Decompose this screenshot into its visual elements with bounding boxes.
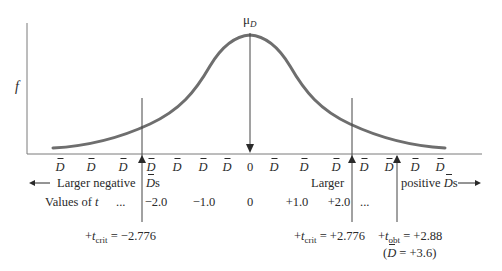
crit-right-value: = +2.776 xyxy=(317,229,365,243)
ellipsis-right: ... xyxy=(360,196,369,209)
mean-label-symbol: μ xyxy=(243,12,250,27)
crit-right-arrow-icon xyxy=(348,155,356,163)
dbar-tick: D xyxy=(198,161,207,174)
zero-tick: 0 xyxy=(247,161,253,174)
crit-right-plus: + xyxy=(294,229,301,243)
obtained-label: +tobt = +2.88 xyxy=(378,230,442,245)
left-direction-suffix: Ds xyxy=(146,177,160,190)
ellipsis-left: ... xyxy=(116,196,125,209)
dbar-tick: D xyxy=(118,161,127,174)
obtained-dbar-value: = +3.6) xyxy=(396,246,436,260)
dbar-tick: D xyxy=(384,161,393,174)
left-direction-label: Larger negative xyxy=(57,177,136,190)
crit-left-label: +tcrit = −2.776 xyxy=(85,230,156,245)
t-row-label: Values of t xyxy=(45,196,98,209)
crit-left-arrow-icon xyxy=(138,155,146,163)
mean-label: μD xyxy=(243,13,256,29)
t-tick: 0 xyxy=(247,196,253,209)
mean-arrow-icon xyxy=(246,144,254,153)
dbar-tick: D xyxy=(222,161,231,174)
crit-left-value: = −2.776 xyxy=(108,229,156,243)
mean-label-sub: D xyxy=(250,19,257,29)
crit-right-label: +tcrit = +2.776 xyxy=(294,230,365,245)
distribution-curve xyxy=(53,35,445,148)
dbar-tick: D xyxy=(359,161,368,174)
t-tick: +1.0 xyxy=(286,196,309,209)
obtained-plus: + xyxy=(378,229,385,243)
dbar-symbol: D xyxy=(387,247,396,260)
right-arrowhead-icon xyxy=(475,180,481,186)
t-tick: −2.0 xyxy=(145,196,168,209)
dbar-letter: D xyxy=(387,246,396,260)
crit-left-plus: + xyxy=(85,229,92,243)
right-direction-label-b: positive Ds xyxy=(401,177,458,190)
dbar-symbol: D xyxy=(444,177,453,190)
t-tick: +2.0 xyxy=(328,196,351,209)
t-tick: −1.0 xyxy=(193,196,216,209)
t-row-label-text: Values of xyxy=(45,195,95,209)
obtained-dbar-label: (D = +3.6) xyxy=(383,247,436,260)
right-direction-label-a: Larger xyxy=(311,177,344,190)
left-arrowhead-icon xyxy=(29,180,35,186)
dbar-symbol: D xyxy=(146,177,155,190)
dbar-tick: D xyxy=(172,161,181,174)
dbar-tick: D xyxy=(331,161,340,174)
t-row-label-var: t xyxy=(95,195,98,209)
obtained-value: = +2.88 xyxy=(400,229,442,243)
dbar-tick: D xyxy=(299,161,308,174)
dbar-tick: D xyxy=(269,161,278,174)
dbar-tick: D xyxy=(410,161,419,174)
crit-left-sub: crit xyxy=(96,235,108,245)
dbar-tick: D xyxy=(435,161,444,174)
obtained-arrow-icon xyxy=(393,155,401,163)
dbar-tick: D xyxy=(146,161,155,174)
dbar-tick: D xyxy=(55,161,64,174)
crit-right-sub: crit xyxy=(305,235,317,245)
y-axis-label: f xyxy=(15,80,19,94)
positive-word: positive xyxy=(401,176,441,190)
dbar-tick: D xyxy=(86,161,95,174)
